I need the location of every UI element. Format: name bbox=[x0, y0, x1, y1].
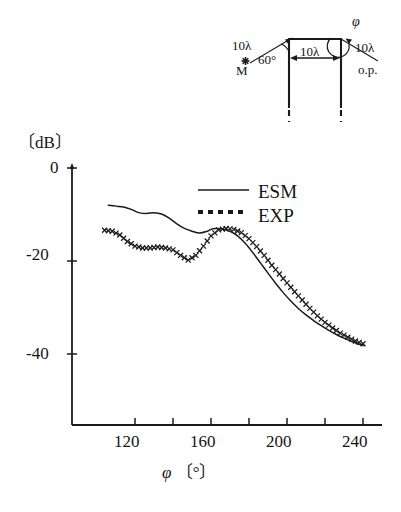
legend-esm-label: ESM bbox=[258, 181, 297, 203]
x-axis-label: φ 〔°〕 bbox=[162, 458, 216, 483]
inset-gap-width-label: 10λ bbox=[300, 44, 319, 60]
inset-incidence-angle-arc bbox=[281, 44, 289, 52]
legend-exp-marker-swatch bbox=[198, 210, 243, 214]
data-series-layer bbox=[102, 205, 365, 346]
x-axis-label-unit: 〔°〕 bbox=[176, 463, 217, 482]
legend bbox=[198, 190, 249, 214]
y-axis-unit-label: 〔dB〕 bbox=[18, 128, 72, 153]
inset-observation-angle-arc bbox=[327, 38, 349, 57]
inset-observation-point-label: o.p. bbox=[358, 62, 378, 78]
plot-axes bbox=[67, 163, 382, 425]
y-tick-label-minus20: -20 bbox=[26, 245, 49, 265]
inset-observation-distance-label: 10λ bbox=[355, 40, 374, 56]
inset-source-marker-label: M bbox=[236, 63, 248, 79]
inset-observation-angle-label: φ bbox=[352, 14, 360, 30]
series-esm-line bbox=[108, 205, 363, 345]
x-tick-label-240: 240 bbox=[342, 432, 368, 452]
x-tick-label-120: 120 bbox=[114, 432, 140, 452]
y-tick-label-minus40: -40 bbox=[26, 344, 49, 364]
x-tick-label-160: 160 bbox=[190, 432, 216, 452]
y-tick-label-0: 0 bbox=[50, 158, 59, 178]
x-axis-ticks bbox=[135, 418, 363, 425]
legend-exp-label: EXP bbox=[258, 205, 294, 227]
inset-observation-angle-arrowhead bbox=[346, 39, 353, 45]
inset-incidence-angle-label: 60° bbox=[258, 52, 276, 68]
inset-source-distance-label: 10λ bbox=[232, 38, 251, 54]
x-tick-label-200: 200 bbox=[266, 432, 292, 452]
x-axis-label-symbol: φ bbox=[162, 463, 171, 482]
